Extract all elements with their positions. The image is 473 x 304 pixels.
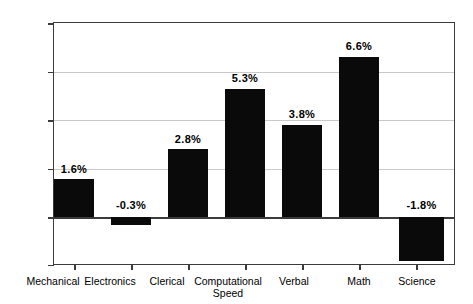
x-tick-mark-3 [188,264,190,270]
bar-math [339,57,379,217]
x-axis-label-computational-speed: Computational Speed [190,275,266,299]
bar-value-clerical: 2.8% [163,133,213,145]
bar-science [399,217,444,261]
bar-clerical [168,149,208,217]
x-axis-label-verbal-line1: Verbal [264,275,324,287]
x-tick-mark-1 [74,264,76,270]
bar-value-verbal: 3.8% [277,108,327,120]
x-axis-label-computational-speed-line1: Computational [190,275,266,287]
bar-verbal [282,125,322,217]
bar-value-science: -1.8% [394,199,449,211]
x-axis-label-electronics-line1: Electronics [80,275,140,287]
x-tick-mark-6 [359,264,361,270]
x-tick-mark-2 [131,264,133,270]
x-axis-label-math-line1: Math [329,275,389,287]
bar-chart: 8% 6% 4% 2% 0% -2% 1.6% -0.3% [0,0,473,304]
bar-value-electronics: -0.3% [106,199,156,211]
x-axis-label-science-line1: Science [387,275,447,287]
bar-electronics [111,217,151,224]
y-tick-mark-4 [48,120,54,122]
x-tick-mark-4 [245,264,247,270]
y-tick-mark-6 [48,72,54,74]
y-tick-mark-8 [48,23,54,25]
x-axis-label-mechanical-line1: Mechanical [23,275,83,287]
bar-value-mechanical: 1.6% [49,163,99,175]
x-axis-label-clerical: Clerical [137,275,197,287]
y-tick-mark-minus2 [48,265,54,267]
x-axis-label-electronics: Electronics [80,275,140,287]
x-axis-label-science: Science [387,275,447,287]
plot-area: 1.6% -0.3% 2.8% 5.3% 3.8% 6.6% -1.8% [53,22,455,265]
x-axis-label-math: Math [329,275,389,287]
x-axis-label-mechanical: Mechanical [23,275,83,287]
x-tick-mark-7 [416,264,418,270]
x-tick-mark-5 [302,264,304,270]
bar-computational-speed [225,89,265,218]
bar-mechanical [54,179,94,218]
x-axis-label-clerical-line1: Clerical [137,275,197,287]
bar-value-math: 6.6% [334,40,384,52]
y-tick-mark-0 [48,217,54,219]
bar-value-computational-speed: 5.3% [220,72,270,84]
x-axis-label-verbal: Verbal [264,275,324,287]
x-axis-label-computational-speed-line2: Speed [190,287,266,299]
